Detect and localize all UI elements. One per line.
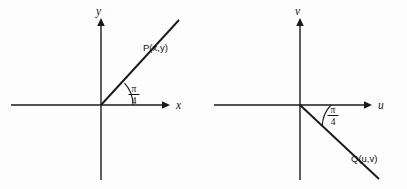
y-axis-label: y <box>95 5 102 18</box>
y-axis-arrowhead <box>97 18 105 26</box>
ray-to-p <box>101 20 179 105</box>
x-axis-label: x <box>175 99 182 111</box>
angle-label-left: π 4 <box>129 84 140 106</box>
x-axis-arrowhead <box>162 101 170 109</box>
angle-numerator-right: π <box>331 105 336 115</box>
figure-container: x y π 4 P(x,y) u v <box>0 0 407 189</box>
left-panel-xy-plane: x y π 4 P(x,y) <box>11 5 182 180</box>
u-axis-label: u <box>378 99 384 111</box>
u-axis-arrowhead <box>364 101 372 109</box>
ray-to-q <box>300 105 379 179</box>
point-label-p: P(x,y) <box>143 42 168 53</box>
angle-numerator-left: π <box>132 84 137 94</box>
angle-denominator-left: 4 <box>132 96 137 106</box>
angle-label-right: π 4 <box>328 105 339 127</box>
right-panel-uv-plane: u v π 4 Q(u,v) <box>214 5 384 180</box>
angle-denominator-right: 4 <box>331 117 336 127</box>
v-axis-label: v <box>295 5 301 17</box>
point-label-q: Q(u,v) <box>351 153 377 164</box>
coordinate-diagrams: x y π 4 P(x,y) u v <box>0 0 407 189</box>
v-axis-arrowhead <box>296 18 304 26</box>
